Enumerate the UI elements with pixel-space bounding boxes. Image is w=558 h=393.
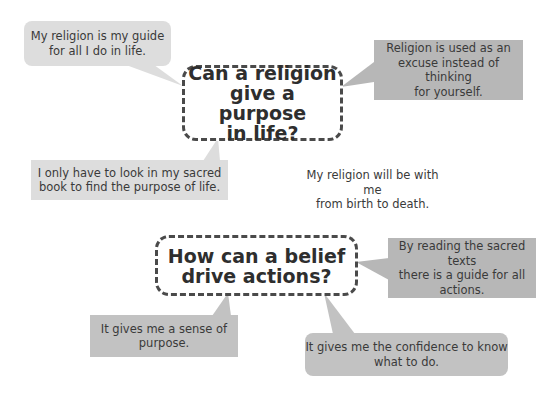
bubble-line: My religion is my guide xyxy=(31,29,164,44)
bubble-line: It gives me a sense of xyxy=(101,322,227,337)
bubble-sacred-texts: By reading the sacred texts there is a g… xyxy=(388,238,536,298)
question-box-religion-purpose: Can a religion give a purpose in life? xyxy=(182,65,343,141)
question-line: give a purpose xyxy=(185,83,340,123)
bubble-line: By reading the sacred texts xyxy=(388,239,536,268)
bubble-line: what to do. xyxy=(305,355,507,370)
tail-sacred-texts xyxy=(356,258,389,280)
bubble-sacred-book: I only have to look in my sacred book to… xyxy=(31,160,228,200)
question-line: How can a belief xyxy=(168,246,345,266)
bubble-line: I only have to look in my sacred xyxy=(38,166,222,181)
tail-excuse xyxy=(341,62,374,87)
question-line: in life? xyxy=(185,123,340,143)
bubble-line: excuse instead of thinking xyxy=(374,56,523,85)
bubble-line: Religion is used as an xyxy=(374,41,523,56)
question-box-belief-actions: How can a belief drive actions? xyxy=(155,235,358,296)
bubble-guide-for-all: My religion is my guide for all I do in … xyxy=(24,21,171,66)
question-line: Can a religion xyxy=(185,63,340,83)
bubble-line: for all I do in life. xyxy=(31,44,164,59)
bubble-line: It gives me the confidence to know xyxy=(305,340,507,355)
bubble-confidence: It gives me the confidence to know what … xyxy=(305,333,508,376)
bubble-line: for yourself. xyxy=(374,85,523,100)
bubble-line: purpose. xyxy=(101,336,227,351)
bubble-excuse: Religion is used as an excuse instead of… xyxy=(374,40,523,100)
bubble-line: there is a guide for all xyxy=(388,268,536,283)
tail-sense-of-purpose xyxy=(212,293,231,316)
tail-confidence xyxy=(324,293,355,334)
question-line: drive actions? xyxy=(168,266,345,286)
bubble-line: actions. xyxy=(388,283,536,298)
bubble-line: book to find the purpose of life. xyxy=(38,180,222,195)
bubble-sense-of-purpose: It gives me a sense of purpose. xyxy=(90,315,238,357)
